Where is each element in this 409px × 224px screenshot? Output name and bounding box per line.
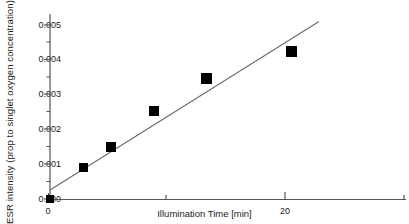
data-point [149, 106, 159, 116]
trend-line [50, 22, 319, 191]
data-points [46, 46, 297, 203]
data-point [286, 46, 297, 57]
x-axis-ticks [49, 192, 405, 199]
chart-figure: ESR intensity (prop to singlet oxygen co… [0, 0, 409, 224]
data-point [106, 142, 116, 152]
data-point [79, 163, 88, 172]
data-point [201, 73, 212, 84]
data-point [46, 195, 54, 203]
plot-area [0, 0, 409, 224]
